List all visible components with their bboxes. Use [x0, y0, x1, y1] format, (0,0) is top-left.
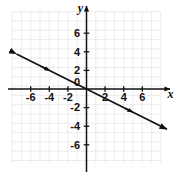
x-tick-label-4: 4	[121, 91, 128, 103]
x-tick-label--4: -4	[44, 91, 55, 103]
y-tick-label--4: -4	[70, 120, 81, 132]
coordinate-plane-figure: -6 -4 -2 2 4 6 6 4 2 0 -2 -4 -6 x y	[0, 0, 180, 175]
y-axis-label: y	[76, 1, 84, 15]
y-tick-label--6: -6	[70, 139, 80, 151]
chart-background	[0, 0, 180, 175]
y-tick-label-6: 6	[74, 27, 80, 39]
x-axis-label: x	[167, 87, 174, 101]
graph-canvas: -6 -4 -2 2 4 6 6 4 2 0 -2 -4 -6 x y	[0, 0, 180, 175]
x-tick-label-2: 2	[102, 91, 108, 103]
y-tick-label-0: 0	[74, 76, 80, 88]
y-tick-label--2: -2	[70, 101, 80, 113]
x-tick-label--6: -6	[26, 91, 36, 103]
y-tick-label-4: 4	[74, 46, 81, 58]
y-tick-label-2: 2	[74, 64, 80, 76]
x-tick-label-6: 6	[139, 91, 145, 103]
